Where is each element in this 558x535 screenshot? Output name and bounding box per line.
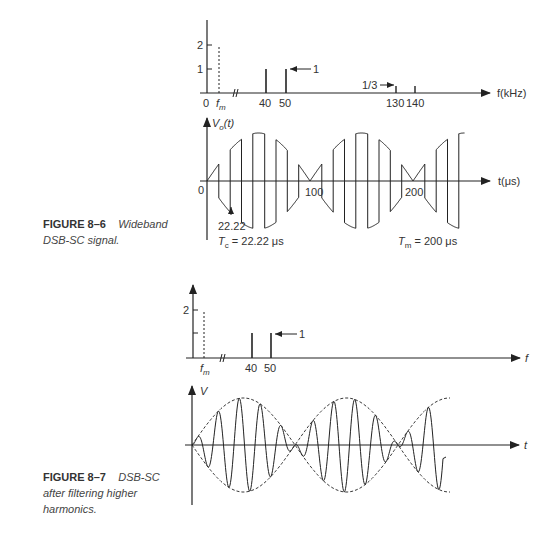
caption-text: harmonics. (43, 501, 160, 517)
x-label-50: 50 (279, 97, 291, 109)
caption-number: FIGURE 8–6 (43, 218, 106, 230)
origin-label: 0 (198, 184, 204, 196)
y-axis-label: V (200, 385, 209, 397)
x-axis-label: f(kHz) (497, 87, 526, 99)
x-label-130: 130 (386, 97, 404, 109)
fig87-spectrum-labels: 2 fm 40 50 1 f (183, 304, 529, 377)
annotation-third: 1/3 (362, 79, 377, 91)
y-tick-1: 1 (197, 63, 203, 75)
figure-8-7-caption: FIGURE 8–7 DSB-SC after filtering higher… (43, 469, 160, 517)
tm-label: Tm = 200 μs (398, 235, 458, 250)
annotation-1: 1 (299, 328, 305, 340)
y-tick-2: 2 (197, 39, 203, 51)
x-label-140: 140 (406, 97, 424, 109)
x-tick-200: 200 (405, 186, 423, 198)
fig86-waveform-labels: Vo(t) 0 100 200 t(μs) 22.22 Tc = 22.22 μ… (198, 117, 520, 250)
fig86-spectrum (200, 20, 490, 97)
fig86-spectrum-labels: 2 1 0 fm 40 50 130 140 1 1/3 f(kHz) (197, 39, 526, 112)
marker-value: 22.22 (218, 220, 246, 232)
x-label-40: 40 (259, 97, 271, 109)
x-tick-100: 100 (305, 186, 323, 198)
caption-text: DSB-SC (118, 471, 160, 483)
caption-text: DSB-SC signal. (43, 232, 168, 248)
x-label-40: 40 (245, 362, 257, 374)
x-label-fm: fm (200, 362, 210, 377)
caption-number: FIGURE 8–7 (43, 471, 106, 483)
figure-canvas: 2 1 0 fm 40 50 130 140 1 1/3 f(kHz) Vo(t… (0, 0, 558, 535)
x-label-fm: fm (216, 97, 226, 112)
x-axis-label: f (525, 352, 529, 364)
y-axis-label: Vo(t) (212, 117, 235, 132)
caption-text: Wideband (118, 218, 167, 230)
caption-text: after filtering higher (43, 485, 160, 501)
figure-8-6-caption: FIGURE 8–6 Wideband DSB-SC signal. (43, 216, 168, 248)
fig87-waveform-labels: V t (200, 385, 528, 451)
x-label-50: 50 (264, 362, 276, 374)
y-tick-2: 2 (183, 304, 189, 316)
fig87-spectrum (186, 285, 520, 362)
annotation-1: 1 (313, 63, 319, 75)
x-label-0: 0 (203, 97, 209, 109)
x-axis-label: t(μs) (498, 175, 520, 187)
fig87-waveform (185, 386, 519, 505)
tc-label: Tc = 22.22 μs (218, 235, 284, 250)
x-axis-label: t (524, 439, 528, 451)
